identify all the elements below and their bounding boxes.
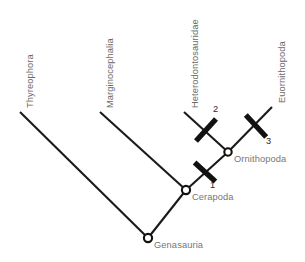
cladogram-diagram: Thyreophora Marginocephalia Heterodontos… [0,0,305,262]
node-label-ornithopoda: Ornithopoda [234,154,286,164]
taxon-label-euornithopoda: Euornithopoda [277,41,287,103]
branch-genasauria-to-thyreophora [20,112,148,238]
node-circle-genasauria [144,234,152,242]
synapomorphy-marker-3-label: 3 [266,136,271,146]
node-label-cerapoda: Cerapoda [192,192,234,202]
branch-genasauria-to-cerapoda [148,190,186,238]
node-circle-cerapoda [182,186,190,194]
taxon-label-thyreophora: Thyreophora [25,54,35,108]
branch-cerapoda-to-marginocephalia [100,112,186,190]
synapomorphy-marker-3-bar [246,115,266,137]
node-label-genasauria: Genasauria [154,240,203,250]
node-circle-ornithopoda [224,148,231,155]
taxon-label-marginocephalia: Marginocephalia [105,38,115,108]
tree-graphic [0,0,305,262]
branch-group [20,107,272,238]
taxon-label-heterodontosauridae: Heterodontosauridae [190,19,200,108]
synapomorphy-marker-2-label: 2 [213,104,218,114]
synapomorphy-marker-1-label: 1 [210,180,215,190]
